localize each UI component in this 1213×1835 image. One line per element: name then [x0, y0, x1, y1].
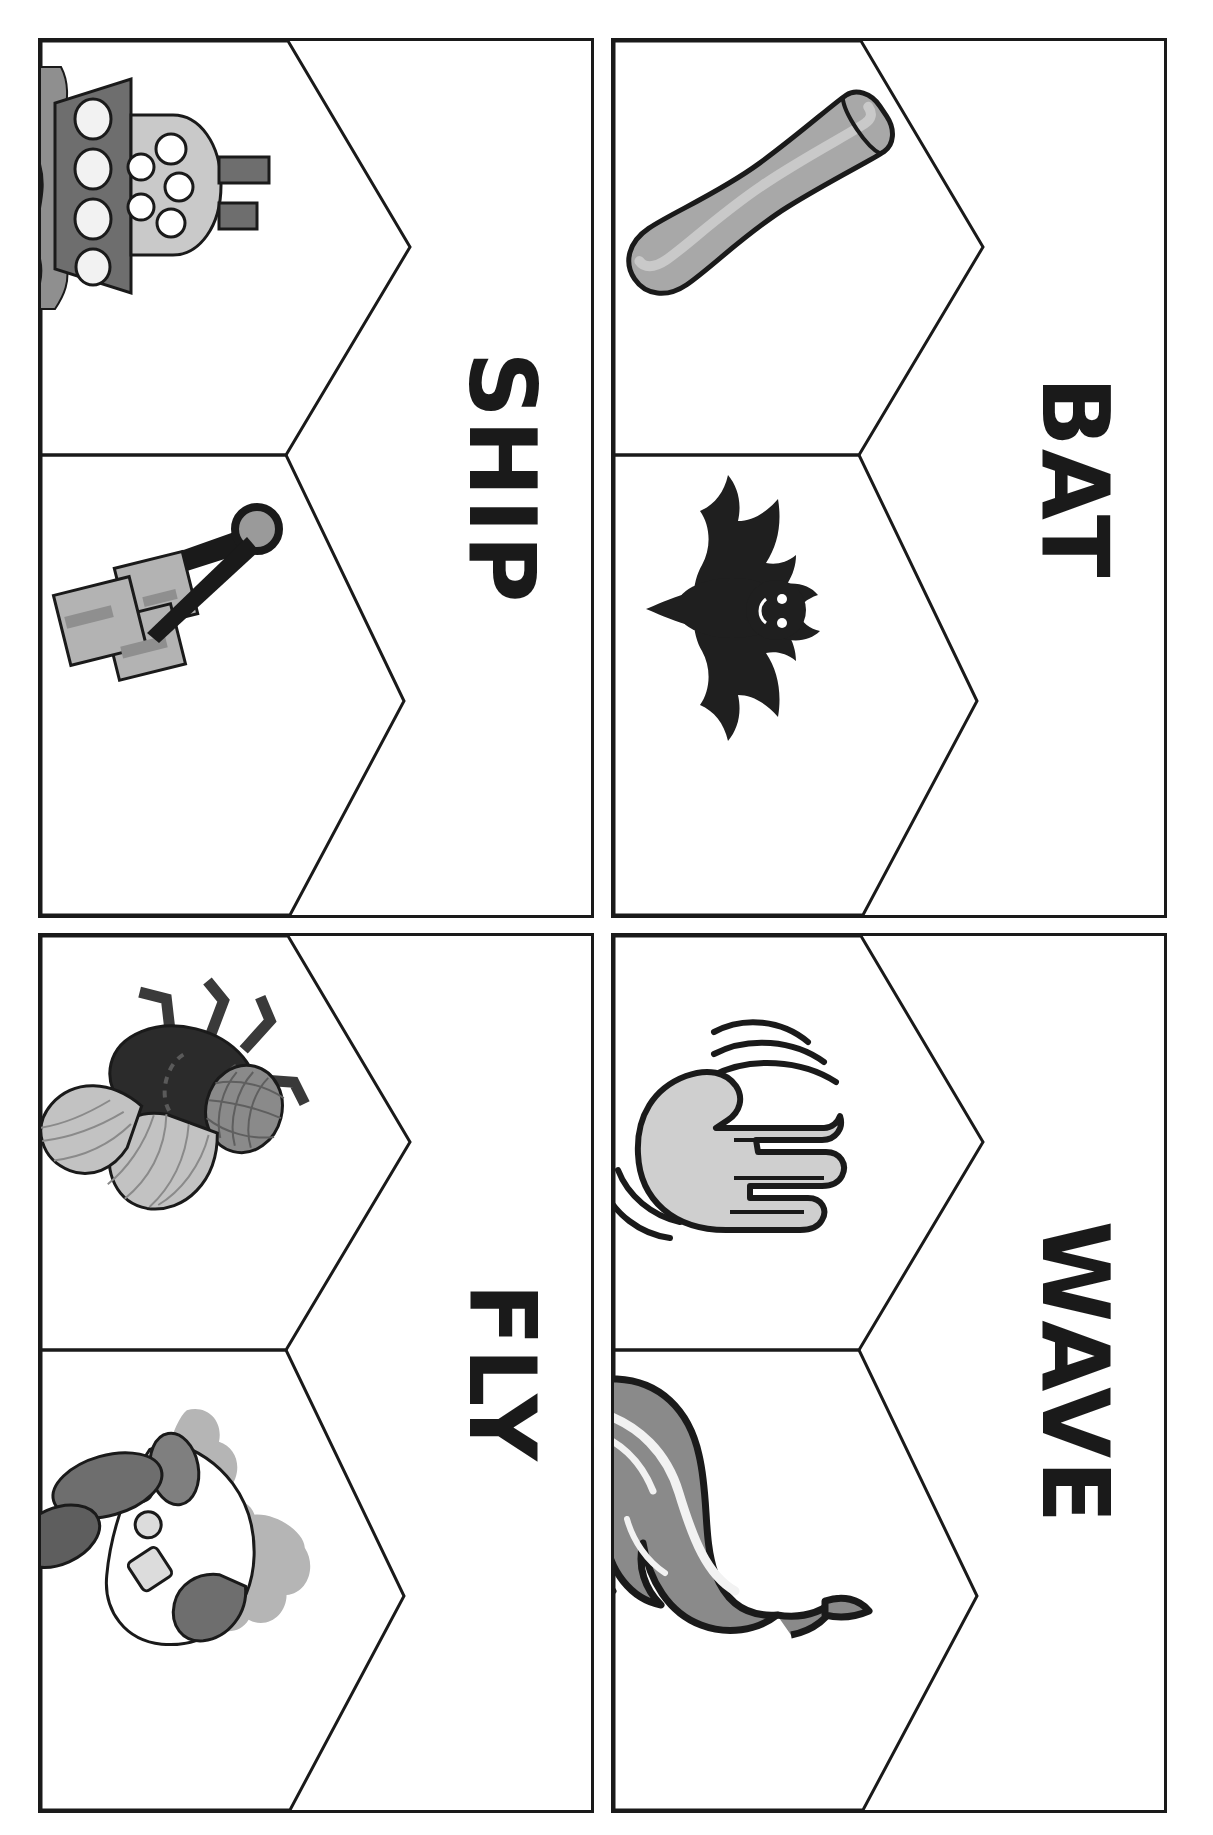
chevron-cells-fly	[41, 936, 591, 1810]
word-card-wave[interactable]: WAVE	[611, 933, 1167, 1813]
chevron-cells-bat	[614, 41, 1164, 915]
chevron-cells-ship	[41, 41, 591, 915]
word-card-bat[interactable]: BAT	[611, 38, 1167, 918]
chevron-cells-wave	[614, 936, 1164, 1810]
word-card-fly[interactable]: FLY	[38, 933, 594, 1813]
worksheet-sheet: SHIP	[0, 0, 1213, 1835]
word-card-ship[interactable]: SHIP	[38, 38, 594, 918]
